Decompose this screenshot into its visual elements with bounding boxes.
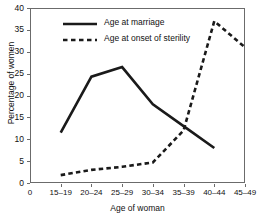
y-axis-title: Percentage of women bbox=[6, 38, 16, 128]
chart-container: 0510152025303540 015–1920–2425–2930–3435… bbox=[0, 0, 257, 222]
legend-label-marriage: Age at marriage bbox=[104, 17, 164, 27]
dashed-line-key bbox=[62, 32, 98, 44]
legend-label-sterility: Age at onset of sterility bbox=[104, 33, 190, 43]
legend-item-marriage: Age at marriage bbox=[62, 14, 222, 30]
chart-legend: Age at marriage Age at onset of sterilit… bbox=[62, 14, 222, 46]
x-axis-title: Age of woman bbox=[30, 203, 245, 213]
series-line-age-at-marriage bbox=[61, 67, 215, 148]
solid-line-key bbox=[62, 16, 98, 28]
legend-item-sterility: Age at onset of sterility bbox=[62, 30, 222, 46]
